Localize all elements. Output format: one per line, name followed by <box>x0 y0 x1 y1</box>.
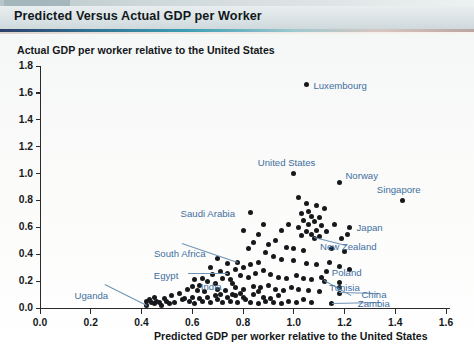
data-point <box>299 211 304 216</box>
x-axis-tick <box>395 309 396 314</box>
data-point <box>291 258 296 263</box>
data-point <box>205 295 210 300</box>
x-axis-tick <box>90 309 91 314</box>
data-point <box>284 276 289 281</box>
data-point <box>327 260 332 265</box>
data-point <box>241 265 246 270</box>
data-point <box>317 215 322 220</box>
data-point <box>309 214 314 219</box>
data-point <box>301 248 306 253</box>
data-point <box>233 285 238 290</box>
data-point <box>279 257 284 262</box>
y-axis-tick-label: 0.4 <box>7 248 33 259</box>
data-point <box>319 275 324 280</box>
data-point <box>233 267 238 272</box>
y-axis-tick <box>36 66 40 67</box>
annotation-leader-line <box>104 284 146 306</box>
data-point <box>304 82 309 87</box>
annotation-label-uganda: Uganda <box>75 290 109 301</box>
data-point <box>251 284 256 289</box>
data-point <box>339 236 344 241</box>
data-point <box>306 222 311 227</box>
data-point <box>261 222 266 227</box>
data-point <box>337 180 342 185</box>
data-point <box>301 297 306 302</box>
data-point <box>225 261 230 266</box>
data-point <box>306 209 311 214</box>
data-point <box>324 229 329 234</box>
scatter-plot: 0.00.20.40.60.81.01.21.41.61.80.00.20.40… <box>0 0 474 351</box>
annotation-label-japan: Japan <box>357 222 383 233</box>
data-point <box>273 287 278 292</box>
data-point <box>279 228 284 233</box>
data-point <box>294 273 299 278</box>
x-axis-tick-label: 0.4 <box>127 317 157 328</box>
x-axis-tick <box>344 309 345 314</box>
data-point <box>208 300 213 305</box>
data-point <box>314 203 319 208</box>
data-point <box>241 228 246 233</box>
y-axis-tick <box>36 227 40 228</box>
y-axis-tick-label: 0.2 <box>7 275 33 286</box>
data-point <box>289 285 294 290</box>
y-axis-tick-label: 1.6 <box>7 87 33 98</box>
x-axis-tick-label: 0.0 <box>25 317 55 328</box>
data-point <box>309 277 314 282</box>
annotation-label-luxembourg: Luxembourg <box>313 80 366 91</box>
y-axis-tick <box>36 146 40 147</box>
data-point <box>279 301 284 306</box>
y-axis-tick-label: 0.8 <box>7 194 33 205</box>
annotation-leader-line <box>188 273 228 274</box>
data-point <box>314 228 319 233</box>
data-point <box>238 291 243 296</box>
data-point <box>253 271 258 276</box>
data-point <box>291 246 296 251</box>
x-axis-tick-label: 0.2 <box>76 317 106 328</box>
y-axis-line <box>40 66 41 309</box>
data-point <box>276 275 281 280</box>
data-point <box>266 283 271 288</box>
x-axis-tick-label: 0.8 <box>228 317 258 328</box>
data-point <box>256 260 261 265</box>
annotation-label-united-states: United States <box>258 157 316 168</box>
y-axis-tick-label: 1.0 <box>7 168 33 179</box>
data-point <box>172 300 177 305</box>
annotation-label-zambia: Zambia <box>358 298 390 309</box>
x-axis-tick-label: 0.6 <box>177 317 207 328</box>
data-point <box>185 287 190 292</box>
x-axis-tick <box>40 309 41 314</box>
data-point <box>263 250 268 255</box>
data-point <box>291 171 296 176</box>
data-point <box>246 246 251 251</box>
data-point <box>296 195 301 200</box>
annotation-label-saudi-arabia: Saudi Arabia <box>181 208 235 219</box>
data-point <box>304 201 309 206</box>
data-point <box>304 261 309 266</box>
x-axis-tick-label: 1.6 <box>431 317 461 328</box>
data-point <box>192 277 197 282</box>
annotation-label-poland: Poland <box>332 267 362 278</box>
data-point <box>271 254 276 259</box>
data-point <box>235 300 240 305</box>
y-axis-tick <box>36 254 40 255</box>
annotation-label-norway: Norway <box>345 170 378 181</box>
data-point <box>261 295 266 300</box>
data-point <box>301 276 306 281</box>
annotation-label-new-zealand: New Zealand <box>320 241 377 252</box>
data-point <box>296 287 301 292</box>
data-point <box>190 284 195 289</box>
data-point <box>345 232 350 237</box>
annotation-label-egypt: Egypt <box>154 270 179 281</box>
data-point <box>299 233 304 238</box>
data-point <box>251 292 256 297</box>
data-point <box>238 273 243 278</box>
data-point <box>256 301 261 306</box>
data-point <box>281 288 286 293</box>
data-point <box>190 295 195 300</box>
data-point <box>152 295 157 300</box>
x-axis-tick-label: 1.0 <box>279 317 309 328</box>
data-point <box>296 225 301 230</box>
data-point <box>169 293 174 298</box>
data-point <box>309 232 314 237</box>
data-point <box>177 291 182 296</box>
